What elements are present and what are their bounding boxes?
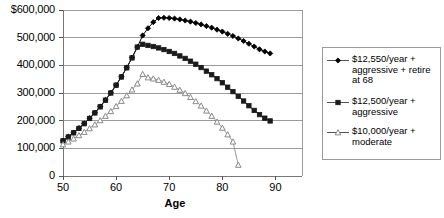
data-point-marker xyxy=(161,15,166,20)
chart-legend: $12,550/year + aggressive + retire at 68… xyxy=(322,47,441,160)
data-point-marker xyxy=(98,105,102,109)
data-point-marker xyxy=(241,99,245,103)
data-point-marker xyxy=(114,83,118,87)
legend-item[interactable]: $10,000/year + moderate xyxy=(327,126,439,147)
data-point-marker xyxy=(231,89,235,93)
data-point-marker xyxy=(177,17,182,22)
data-point-marker xyxy=(151,44,155,48)
data-point-marker xyxy=(335,130,341,135)
data-point-marker xyxy=(252,44,257,49)
data-point-marker xyxy=(109,91,113,95)
y-axis-tick-label: 0 xyxy=(0,169,55,181)
data-point-marker xyxy=(119,75,123,79)
data-point-marker xyxy=(87,126,93,131)
x-axis-tick-label: 80 xyxy=(207,181,237,193)
data-point-marker xyxy=(263,116,267,120)
y-axis-tick-label: 300,000 xyxy=(0,86,55,98)
data-point-marker xyxy=(172,84,178,89)
data-point-marker xyxy=(156,46,160,50)
data-point-marker xyxy=(220,29,225,34)
data-point-marker xyxy=(241,38,246,43)
y-axis-tick-label: 200,000 xyxy=(0,114,55,126)
data-point-marker xyxy=(257,112,261,116)
data-point-marker xyxy=(161,79,167,84)
data-point-marker xyxy=(135,45,139,49)
data-point-marker xyxy=(183,18,188,23)
data-point-marker xyxy=(209,25,214,30)
data-point-marker xyxy=(146,43,150,47)
y-axis-tick-label: 500,000 xyxy=(0,31,55,43)
data-point-marker xyxy=(183,56,187,60)
data-point-marker xyxy=(188,94,194,99)
data-point-marker xyxy=(162,47,166,51)
x-axis-tick-label: 90 xyxy=(260,181,290,193)
data-point-marker xyxy=(194,62,198,66)
data-point-marker xyxy=(167,15,172,20)
data-point-marker xyxy=(172,16,177,21)
data-point-marker xyxy=(210,73,214,77)
y-axis-tick-label: $600,000 xyxy=(0,3,55,15)
data-point-marker xyxy=(140,71,146,76)
data-point-marker xyxy=(225,85,229,89)
legend-marker-filled-square-icon xyxy=(327,97,349,108)
data-point-marker xyxy=(268,119,272,123)
data-point-marker xyxy=(93,111,97,115)
data-point-marker xyxy=(247,104,251,108)
data-point-marker xyxy=(262,49,267,54)
data-point-marker xyxy=(130,56,134,60)
data-point-marker xyxy=(268,51,273,56)
series-1 xyxy=(60,15,272,143)
data-point-marker xyxy=(188,19,193,24)
data-point-marker xyxy=(125,66,129,70)
data-point-marker xyxy=(178,54,182,58)
data-point-marker xyxy=(166,81,172,86)
data-point-marker xyxy=(246,41,251,46)
legend-item-label: $12,500/year + aggressive xyxy=(349,96,416,117)
data-point-marker xyxy=(215,76,219,80)
legend-item-label: $12,550/year + aggressive + retire at 68 xyxy=(349,54,430,86)
x-axis-title: Age xyxy=(125,197,225,209)
legend-marker-filled-diamond-icon xyxy=(327,55,349,66)
data-point-marker xyxy=(167,49,171,53)
chart-container: 0100,000200,000300,000400,000500,000$600… xyxy=(0,0,444,218)
data-point-marker xyxy=(177,87,183,92)
data-point-marker xyxy=(220,81,224,85)
x-axis-tick-label: 60 xyxy=(101,181,131,193)
data-point-marker xyxy=(77,126,81,130)
data-point-marker xyxy=(235,162,241,167)
data-point-marker xyxy=(140,42,144,46)
data-point-marker xyxy=(214,27,219,32)
data-point-marker xyxy=(188,59,192,63)
data-point-marker xyxy=(257,47,262,52)
legend-key-marker xyxy=(327,55,349,66)
data-point-marker xyxy=(150,76,156,81)
data-point-marker xyxy=(252,108,256,112)
data-point-marker xyxy=(145,75,151,80)
data-point-marker xyxy=(71,131,75,135)
data-point-marker xyxy=(236,94,240,98)
legend-key-marker xyxy=(327,127,349,138)
x-axis-tick-label: 50 xyxy=(48,181,78,193)
data-point-marker xyxy=(198,22,203,27)
y-axis-tick-label: 400,000 xyxy=(0,58,55,70)
legend-marker-open-triangle-icon xyxy=(327,127,349,138)
data-point-marker xyxy=(172,51,176,55)
y-axis-tick-label: 100,000 xyxy=(0,141,55,153)
legend-item[interactable]: $12,550/year + aggressive + retire at 68 xyxy=(327,54,439,86)
data-point-marker xyxy=(236,36,241,41)
data-point-marker xyxy=(225,31,230,36)
data-point-marker xyxy=(199,65,203,69)
data-point-marker xyxy=(193,20,198,25)
legend-key-marker xyxy=(327,97,349,108)
data-point-marker xyxy=(81,129,87,134)
data-point-marker xyxy=(135,81,141,86)
data-point-marker xyxy=(103,98,107,102)
legend-item-label: $10,000/year + moderate xyxy=(349,126,416,147)
data-point-marker xyxy=(82,122,86,126)
x-axis-tick-label: 70 xyxy=(154,181,184,193)
data-point-marker xyxy=(87,116,91,120)
data-point-marker xyxy=(204,23,209,28)
data-point-marker xyxy=(71,136,77,141)
legend-item[interactable]: $12,500/year + aggressive xyxy=(327,96,439,117)
data-point-marker xyxy=(204,69,208,73)
